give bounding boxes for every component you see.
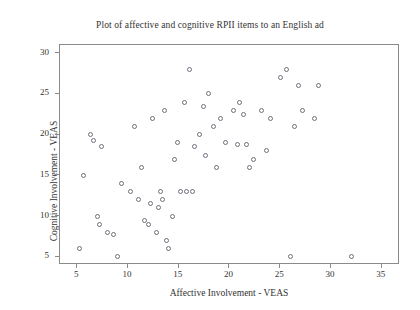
data-point xyxy=(284,67,289,72)
data-point xyxy=(150,116,155,121)
data-point xyxy=(259,108,264,113)
data-point xyxy=(214,165,219,170)
data-point xyxy=(278,75,283,80)
data-point xyxy=(81,173,86,178)
x-tick-label: 15 xyxy=(166,270,190,279)
data-point xyxy=(211,124,216,129)
x-tick-mark xyxy=(228,264,229,268)
data-point xyxy=(184,189,189,194)
data-point xyxy=(136,197,141,202)
y-axis: Cognitive Involvement - VEAS xyxy=(22,44,23,264)
data-point xyxy=(203,153,208,158)
data-point xyxy=(197,132,202,137)
data-point xyxy=(296,83,301,88)
data-point xyxy=(312,116,317,121)
data-point xyxy=(235,142,240,147)
data-point xyxy=(132,124,137,129)
data-point xyxy=(241,112,246,117)
x-tick-label: 10 xyxy=(115,270,139,279)
y-axis-title: Cognitive Involvement - VEAS xyxy=(49,71,59,291)
data-point xyxy=(349,254,354,259)
data-point xyxy=(292,124,297,129)
data-point xyxy=(158,189,163,194)
data-point xyxy=(97,222,102,227)
data-point xyxy=(154,230,159,235)
x-tick-mark xyxy=(381,264,382,268)
data-point xyxy=(288,254,293,259)
x-tick-mark xyxy=(76,264,77,268)
data-point xyxy=(178,189,183,194)
x-tick-mark xyxy=(127,264,128,268)
data-point xyxy=(166,246,171,251)
data-point xyxy=(105,230,110,235)
y-tick-label: 25 xyxy=(27,88,49,97)
data-point xyxy=(170,214,175,219)
data-point xyxy=(172,157,177,162)
scatter-plot-figure: Plot of affective and cognitive RPII ite… xyxy=(0,0,420,310)
x-tick-label: 5 xyxy=(64,270,88,279)
x-tick-label: 25 xyxy=(267,270,291,279)
data-point xyxy=(316,83,321,88)
data-point xyxy=(139,165,144,170)
data-point xyxy=(190,189,195,194)
data-point xyxy=(187,67,192,72)
y-tick-label: 20 xyxy=(27,129,49,138)
chart-title-line-1: Plot of affective and cognitive RPII ite… xyxy=(96,20,324,30)
y-tick-label: 30 xyxy=(27,48,49,57)
x-tick-label: 35 xyxy=(369,270,393,279)
data-point xyxy=(160,197,165,202)
data-point xyxy=(192,144,197,149)
data-point xyxy=(201,104,206,109)
x-tick-label: 20 xyxy=(216,270,240,279)
data-point xyxy=(264,148,269,153)
data-point xyxy=(231,108,236,113)
data-point xyxy=(206,91,211,96)
data-point xyxy=(148,201,153,206)
data-point xyxy=(91,138,96,143)
data-point xyxy=(77,246,82,251)
data-point xyxy=(218,116,223,121)
data-point xyxy=(244,142,249,147)
x-tick-label: 30 xyxy=(318,270,342,279)
y-tick-label: 5 xyxy=(27,251,49,260)
data-point xyxy=(164,238,169,243)
data-point xyxy=(247,165,252,170)
data-point xyxy=(162,108,167,113)
y-tick-label: 15 xyxy=(27,170,49,179)
x-tick-mark xyxy=(178,264,179,268)
x-tick-mark xyxy=(279,264,280,268)
data-point xyxy=(223,140,228,145)
data-point xyxy=(156,205,161,210)
data-point xyxy=(237,100,242,105)
plot-area xyxy=(59,44,399,264)
data-point xyxy=(88,132,93,137)
data-point xyxy=(175,140,180,145)
x-axis-title: Affective Involvement - VEAS xyxy=(59,288,399,298)
data-point xyxy=(182,100,187,105)
data-point xyxy=(119,181,124,186)
data-point xyxy=(300,108,305,113)
data-point xyxy=(99,144,104,149)
data-point xyxy=(146,222,151,227)
data-point xyxy=(268,116,273,121)
data-point xyxy=(115,254,120,259)
y-tick-label: 10 xyxy=(27,211,49,220)
data-point xyxy=(251,157,256,162)
data-point xyxy=(128,189,133,194)
data-points-layer xyxy=(60,45,398,263)
data-point xyxy=(95,214,100,219)
x-tick-mark xyxy=(330,264,331,268)
data-point xyxy=(111,232,116,237)
